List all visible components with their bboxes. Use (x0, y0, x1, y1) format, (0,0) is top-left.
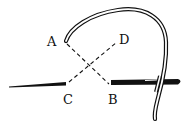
thread-left (9, 82, 66, 88)
diagram-canvas (0, 0, 188, 132)
stitch-diagram: A D C B (0, 0, 188, 132)
point-label-d: D (119, 33, 129, 46)
point-label-b: B (108, 93, 118, 106)
point-label-a: A (47, 35, 56, 48)
thread-right (111, 79, 181, 85)
dashed-line-c-d (69, 42, 117, 82)
dashed-line-a-b (67, 44, 109, 84)
point-label-c: C (63, 93, 73, 106)
